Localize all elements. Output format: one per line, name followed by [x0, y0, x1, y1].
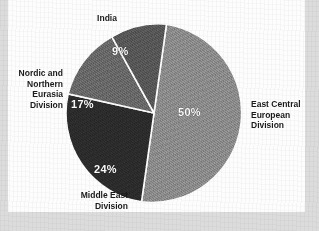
slice-value-nordic-and-northern-eurasia-division: 17%	[71, 98, 94, 110]
slice-value-middle-east-division: 24%	[94, 163, 117, 175]
pie-chart-figure: 50% 24% 17% 9% East Central European Div…	[0, 0, 319, 231]
slice-value-india: 9%	[112, 45, 129, 57]
chart-canvas: 50% 24% 17% 9% East Central European Div…	[8, 0, 305, 212]
slice-label-india: India	[82, 13, 132, 24]
pie-svg	[64, 23, 244, 203]
pie-graphic	[64, 23, 244, 203]
slice-label-nordic-and-northern-eurasia-division: Nordic and Northern Eurasia Division	[8, 68, 63, 110]
slice-label-middle-east-division: Middle East Division	[28, 190, 128, 211]
slice-label-east-central-european-division: East Central European Division	[251, 99, 305, 131]
slice-value-east-central-european-division: 50%	[178, 106, 201, 118]
